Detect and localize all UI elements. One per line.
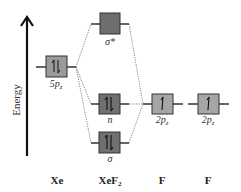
orbital-label-sigma-star: σ*	[105, 36, 115, 47]
column-label-xe: Xe	[51, 174, 64, 186]
orbital-xe-5pz: 5pz	[36, 56, 76, 91]
orbital-label-sigma: σ	[108, 153, 114, 164]
orbital-f1-2pz: 2pz	[143, 94, 183, 127]
mo-diagram: Energy 5pz σ* n	[0, 0, 241, 192]
orbital-label-n: n	[108, 114, 113, 125]
column-label-xef2: XeF2	[98, 174, 122, 188]
orbital-sigma: σ	[91, 132, 129, 164]
orbital-n: n	[91, 94, 129, 125]
column-label-f2: F	[205, 174, 212, 186]
orbital-sigma-star: σ*	[91, 13, 129, 47]
orbital-label-f2-2pz: 2pz	[202, 114, 215, 127]
orbital-label-f1-2pz: 2pz	[156, 114, 169, 127]
orbital-f2-2pz: 2pz	[188, 94, 229, 127]
energy-label: Energy	[10, 84, 22, 116]
orbital-label-5pz: 5pz	[50, 78, 63, 91]
column-label-f1: F	[159, 174, 166, 186]
column-labels: Xe XeF2 F F	[51, 174, 212, 188]
energy-axis: Energy	[10, 17, 33, 156]
